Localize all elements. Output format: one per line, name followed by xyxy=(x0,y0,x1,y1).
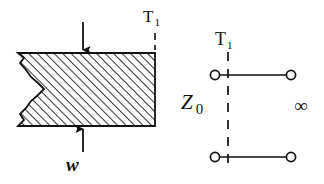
characteristic-impedance-label: Z0 xyxy=(181,92,200,113)
figure-canvas xyxy=(0,0,324,184)
characteristic-impedance-subscript: 0 xyxy=(196,101,204,117)
load-label-w: w xyxy=(66,155,79,174)
terminal-plane-label-network-letter: T xyxy=(215,29,226,49)
node-top-left xyxy=(210,70,219,79)
terminal-plane-label-specimen-letter: T xyxy=(143,7,153,26)
node-bottom-left xyxy=(210,152,219,161)
infinity-termination-label: ∞ xyxy=(294,96,308,115)
node-top-right xyxy=(286,70,295,79)
technical-figure: T1 w T1 Z0 ∞ xyxy=(0,0,324,184)
terminal-plane-label-network-subscript: 1 xyxy=(227,39,233,51)
terminal-plane-label-specimen: T1 xyxy=(143,8,159,25)
terminal-plane-label-network: T1 xyxy=(215,30,232,48)
characteristic-impedance-letter: Z xyxy=(181,90,193,114)
node-bottom-right xyxy=(286,152,295,161)
terminal-plane-label-specimen-subscript: 1 xyxy=(154,16,160,28)
